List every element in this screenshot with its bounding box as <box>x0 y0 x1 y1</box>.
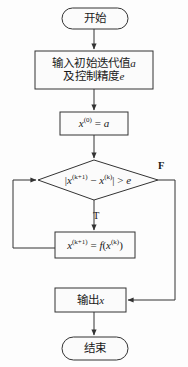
node-start-shape <box>62 8 128 29</box>
node-input-shape <box>35 51 153 89</box>
branch-label-false: F <box>158 160 164 171</box>
node-output-shape <box>55 288 126 312</box>
node-init-shape <box>60 112 128 135</box>
node-iterate-shape <box>55 232 135 258</box>
flowchart-canvas: 开始 输入初始迭代值a 及控制精度e x(0) = a |x(k+1) − x(… <box>0 0 188 367</box>
node-decision-shape <box>38 160 158 200</box>
node-end-shape <box>62 337 128 360</box>
flowchart-shapes <box>0 0 188 367</box>
branch-label-true: T <box>93 210 99 221</box>
connector-iterate-feedback-to-decision <box>13 180 55 248</box>
